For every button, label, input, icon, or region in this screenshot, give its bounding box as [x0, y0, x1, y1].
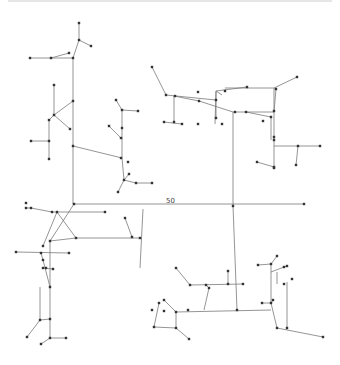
graph-node: [104, 211, 106, 213]
graph-node: [215, 117, 217, 119]
graph-node: [127, 161, 129, 163]
graph-node: [242, 283, 244, 285]
graph-node: [73, 203, 75, 205]
graph-node: [189, 284, 191, 286]
graph-node: [137, 110, 139, 112]
graph-node: [53, 84, 55, 86]
graph-node: [303, 203, 305, 205]
graph-node: [163, 310, 165, 312]
graph-node: [29, 57, 31, 59]
graph-node: [215, 99, 217, 101]
graph-node: [295, 164, 297, 166]
graph-edge: [233, 206, 237, 310]
graph-node: [256, 161, 258, 163]
graph-node: [72, 100, 74, 102]
graph-node: [68, 52, 70, 54]
graph-node: [51, 211, 53, 213]
graph-node: [120, 157, 122, 159]
graph-node: [286, 265, 288, 267]
graph-node: [65, 337, 67, 339]
graph-edge: [124, 180, 136, 183]
graph-node: [78, 22, 80, 24]
graph-node: [90, 45, 92, 47]
graph-node: [50, 57, 52, 59]
graph-node: [276, 255, 278, 257]
graph-node: [205, 284, 207, 286]
graph-node: [48, 158, 50, 160]
graph-node: [158, 302, 160, 304]
graph-node: [49, 240, 51, 242]
graph-edge: [271, 303, 277, 328]
graph-node: [40, 252, 42, 254]
graph-edge: [154, 303, 159, 327]
graph-node: [261, 302, 263, 304]
graph-node: [232, 205, 234, 207]
graph-node: [121, 127, 123, 129]
graph-node: [52, 268, 54, 270]
graph-node: [30, 140, 32, 142]
graph-edge: [277, 328, 323, 337]
network-graph: 50: [0, 0, 340, 365]
graph-edge: [176, 268, 190, 285]
graph-edge: [154, 327, 176, 328]
graph-edge: [109, 126, 121, 138]
graph-node: [42, 267, 44, 269]
graph-node: [188, 338, 190, 340]
graph-node: [49, 318, 51, 320]
graph-node: [175, 267, 177, 269]
graph-node: [221, 123, 223, 125]
graph-node: [25, 207, 27, 209]
graph-edge: [79, 40, 91, 46]
graph-node: [270, 116, 272, 118]
graph-node: [276, 327, 278, 329]
graph-node: [26, 336, 28, 338]
graph-label: 50: [166, 197, 175, 205]
graph-edge: [116, 100, 122, 110]
graph-node: [151, 309, 153, 311]
graph-node: [197, 123, 199, 125]
graph-node: [48, 119, 50, 121]
graph-edge: [50, 238, 76, 241]
graph-node: [163, 121, 165, 123]
graph-node: [286, 327, 288, 329]
graph-edge: [152, 67, 166, 95]
graph-node: [128, 173, 130, 175]
graph-node: [257, 264, 259, 266]
graph-node: [283, 266, 285, 268]
graph-node: [56, 211, 58, 213]
graph-edge: [43, 260, 50, 287]
graph-edge: [246, 112, 271, 117]
graph-node: [123, 179, 125, 181]
graph-node: [15, 251, 17, 253]
graph-node: [270, 302, 272, 304]
graph-edge: [164, 300, 176, 312]
graph-node: [49, 286, 51, 288]
graph-node: [273, 139, 275, 141]
graph-node: [40, 343, 42, 345]
graph-node: [297, 145, 299, 147]
graph-node: [68, 252, 70, 254]
graph-edge: [31, 208, 52, 212]
graph-node: [296, 76, 298, 78]
graph-edge: [122, 158, 124, 180]
graph-node: [108, 125, 110, 127]
graph-node: [49, 337, 51, 339]
graph-edge: [54, 101, 73, 115]
graph-edge: [118, 180, 124, 192]
graph-edge: [50, 204, 74, 241]
graph-node: [25, 202, 27, 204]
graph-edge: [41, 338, 50, 344]
graph-node: [273, 166, 275, 168]
graph-node: [117, 191, 119, 193]
graph-node: [131, 236, 133, 238]
graph-edges: [16, 23, 323, 344]
graph-node: [319, 145, 321, 147]
graph-node: [273, 110, 275, 112]
graph-node: [39, 319, 41, 321]
graph-edge: [296, 146, 298, 165]
graph-node: [48, 140, 50, 142]
graph-edge: [190, 284, 243, 285]
graph-node: [224, 90, 226, 92]
graph-edge: [216, 91, 222, 95]
graph-node: [187, 309, 189, 311]
